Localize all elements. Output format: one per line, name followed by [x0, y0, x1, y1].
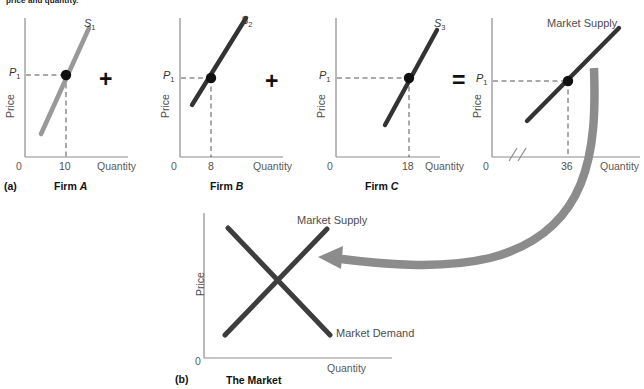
part-tag-a: (a)	[4, 180, 17, 192]
curve-label-s1: S1	[84, 17, 96, 32]
origin-label-firm-b: 0	[171, 160, 177, 172]
curve-label-market-supply: Market Supply	[547, 17, 617, 29]
panel-title-firm-b: Firm B	[210, 180, 243, 192]
supply-curve-s1	[41, 28, 89, 134]
x-axis-break-marks	[509, 148, 526, 161]
origin-label-market: 0	[483, 160, 489, 172]
market-supply-label: Market Supply	[297, 214, 367, 226]
y-axis-label-firm-b: Price	[159, 94, 171, 118]
curve-label-s3: S3	[434, 17, 446, 32]
x-axis-label-firm-a: Quantity	[97, 160, 136, 172]
operator-plus-1: +	[99, 68, 112, 91]
y-axis-label-firm-a: Price	[4, 94, 16, 118]
supply-curve-s2	[192, 18, 246, 105]
x-axis-label-the-market: Quantity	[327, 362, 366, 374]
quantity-tick-market: 36	[561, 160, 573, 172]
y-axis-label-the-market: Price	[194, 272, 206, 296]
curve-label-s2: S2	[241, 14, 253, 29]
price-label-firm-b: P1	[163, 69, 175, 84]
origin-label-firm-c: 0	[327, 160, 333, 172]
part-tag-b: (b)	[175, 373, 188, 385]
panel-market-supply-axes	[492, 18, 640, 157]
quantity-tick-firm-b: 8	[208, 160, 214, 172]
connector-arrowhead	[318, 246, 343, 269]
x-axis-label-market: Quantity	[600, 160, 639, 172]
origin-label-the-market: 0	[195, 355, 201, 367]
price-label-firm-a: P1	[9, 66, 21, 81]
y-axis-label-market: Price	[471, 94, 483, 118]
x-axis-label-firm-b: Quantity	[253, 160, 292, 172]
panel-title-firm-c: Firm C	[365, 180, 398, 192]
quantity-tick-firm-a: 10	[59, 160, 71, 172]
equilibrium-point-market	[563, 76, 573, 86]
equilibrium-point-firm-b	[206, 73, 216, 83]
panel-firm-b-guides	[181, 78, 211, 157]
quantity-tick-firm-c: 18	[402, 160, 414, 172]
figure-artwork	[0, 0, 644, 389]
origin-label-firm-a: 0	[16, 160, 22, 172]
panel-firm-c-guides	[337, 78, 409, 157]
equilibrium-point-firm-c	[404, 73, 414, 83]
market-demand-label: Market Demand	[336, 327, 414, 339]
panel-title-the-market: The Market	[226, 374, 281, 386]
price-label-firm-c: P1	[319, 69, 331, 84]
connector-arrow-path	[334, 68, 595, 265]
panel-title-firm-a: Firm A	[54, 180, 87, 192]
supply-curve-market	[527, 28, 619, 121]
panel-firm-c-axes	[336, 18, 440, 157]
operator-plus-2: +	[265, 70, 278, 93]
figure-container: price and quantity.	[0, 0, 644, 389]
equilibrium-point-firm-a	[61, 70, 71, 80]
x-axis-label-firm-c: Quantity	[425, 160, 464, 172]
operator-equals: =	[452, 69, 465, 92]
price-label-market: P1	[476, 72, 488, 87]
y-axis-label-firm-c: Price	[315, 94, 327, 118]
